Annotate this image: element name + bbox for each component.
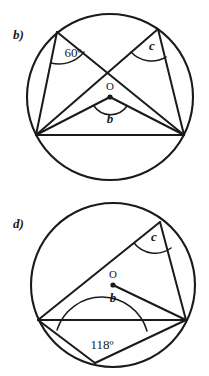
part-label-d: d): [13, 216, 24, 231]
angle-arc-118: [57, 297, 147, 331]
center-point-dot-d: [110, 282, 115, 287]
angle-label-118: 118º: [90, 337, 113, 352]
radius-center-to-bottomright: [110, 97, 184, 135]
center-point-dot-b: [107, 94, 112, 99]
geometry-figure: b) 60º c O b d) c: [0, 0, 209, 376]
chord-topright-to-right: [160, 222, 186, 320]
center-label-o-b: O: [106, 80, 114, 92]
angle-label-c-d: c: [151, 229, 157, 244]
angle-label-b-central: b: [107, 111, 114, 126]
center-label-o-d: O: [109, 268, 117, 280]
chord-topright-to-left: [38, 222, 160, 320]
angle-label-c-b: c: [149, 38, 155, 53]
panel-b: b) 60º c O b: [13, 14, 193, 180]
chord-topright-to-bottomright: [158, 29, 184, 135]
angle-label-b-d: b: [110, 290, 117, 305]
angle-arc-c-b: [131, 52, 166, 61]
panel-d: d) c O b 118º: [13, 203, 195, 367]
part-label-b: b): [13, 27, 24, 42]
diagram-canvas: b) 60º c O b d) c: [0, 0, 209, 376]
chord-left-to-bottom: [38, 320, 95, 363]
angle-label-60: 60º: [64, 45, 81, 60]
